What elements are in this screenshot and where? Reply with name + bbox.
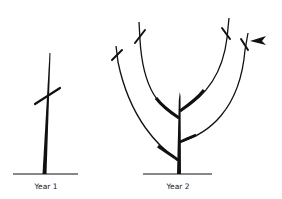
year1-label: Year 1 [33, 182, 57, 191]
year2-trunk [177, 92, 181, 174]
year2-branch-outer-left-thick [158, 146, 178, 160]
year2-cut-inner-right [222, 28, 230, 39]
year1-panel: Year 1 [13, 53, 78, 191]
pruning-diagram: Year 1 Year 2 [0, 0, 282, 199]
year2-branch-outer-right-thick [180, 135, 196, 142]
year2-branch-outer-left [116, 46, 178, 160]
year2-branch-inner-left-thick [156, 98, 179, 118]
year2-branch-inner-right [180, 18, 229, 111]
year2-branch-inner-right-thick [180, 90, 204, 111]
year1-trunk [43, 53, 51, 174]
arrowhead-pointer-icon [250, 36, 266, 45]
year2-panel: Year 2 [112, 18, 266, 191]
year2-label: Year 2 [165, 182, 189, 191]
year2-branch-outer-right [180, 33, 248, 142]
